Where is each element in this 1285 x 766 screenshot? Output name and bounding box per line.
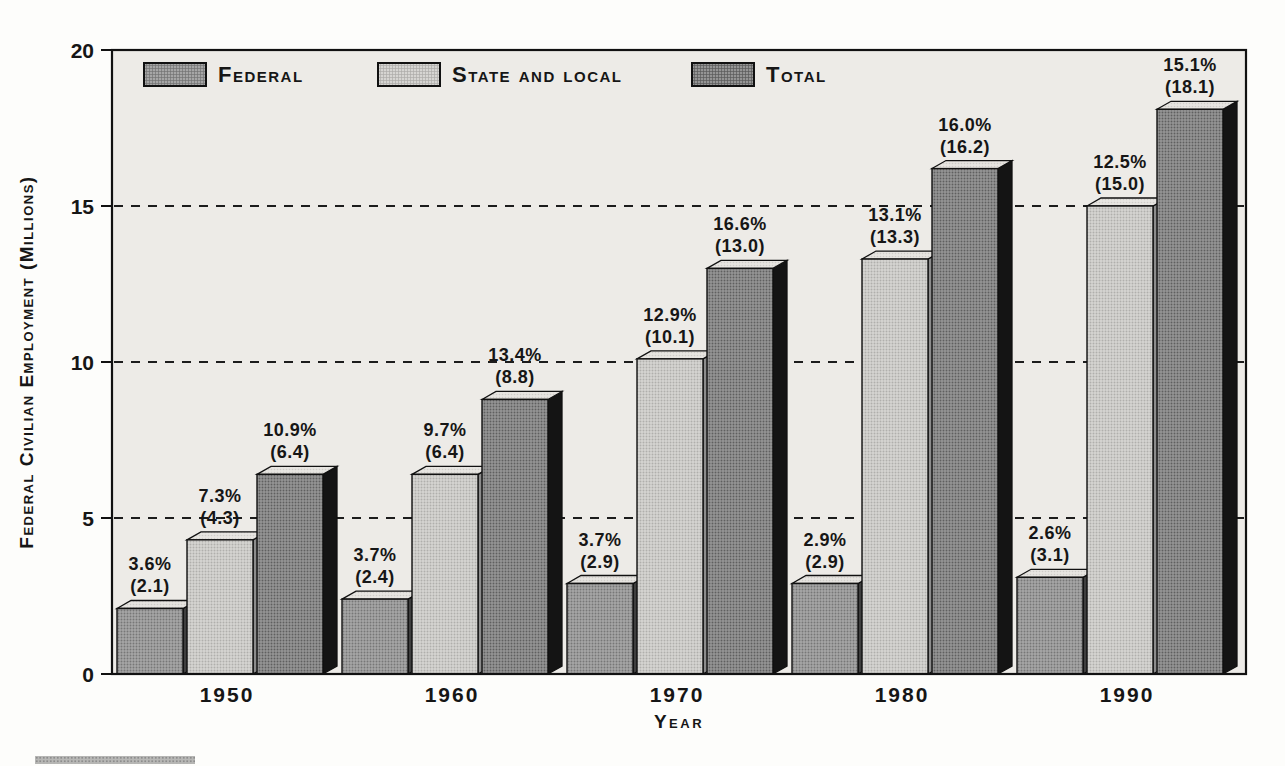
bar-value-label-total-1990: (18.1): [1165, 77, 1215, 97]
y-tick-label-15: 15: [71, 195, 95, 218]
bar-pct-label-state-and-local-1990: 12.5%: [1093, 152, 1147, 172]
bar-federal-1950-top: [117, 600, 197, 608]
legend-item-state-local: State and local: [377, 62, 623, 87]
bar-state-and-local-1990-top: [1087, 198, 1167, 206]
bar-federal-1960-top: [342, 591, 422, 599]
bar-federal-1980: [792, 584, 858, 674]
bar-value-label-state-and-local-1950: (4.3): [200, 508, 240, 528]
legend-label-state-local: State and local: [452, 62, 623, 87]
bar-value-label-total-1950: (6.4): [270, 442, 310, 462]
bar-federal-1980-top: [792, 576, 872, 584]
bar-total-1980-side: [998, 161, 1012, 674]
bar-value-label-federal-1970: (2.9): [580, 552, 620, 572]
bar-federal-1950: [117, 608, 183, 674]
bar-pct-label-total-1960: 13.4%: [488, 345, 542, 365]
x-axis-title: Year: [654, 711, 704, 733]
legend-item-federal: Federal: [143, 62, 304, 87]
page-decoration-rule: [35, 756, 195, 764]
bar-federal-1970: [567, 584, 633, 674]
bar-state-and-local-1970-top: [637, 351, 717, 359]
bar-total-1960-side: [548, 391, 562, 674]
bar-total-1970-top: [707, 260, 787, 268]
bar-pct-label-federal-1980: 2.9%: [803, 530, 846, 550]
legend-item-total: Total: [691, 62, 827, 87]
legend-swatch-state-local: [377, 62, 441, 87]
x-tick-label-1960: 1960: [425, 683, 480, 706]
bar-state-and-local-1950: [187, 540, 253, 674]
y-tick-label-20: 20: [71, 39, 94, 62]
bar-total-1970-side: [773, 260, 787, 674]
bar-pct-label-state-and-local-1970: 12.9%: [643, 305, 697, 325]
y-tick-label-5: 5: [82, 507, 94, 530]
legend-label-federal: Federal: [218, 62, 304, 87]
bar-value-label-federal-1990: (3.1): [1030, 545, 1070, 565]
bar-pct-label-total-1980: 16.0%: [938, 115, 992, 135]
bar-state-and-local-1990: [1087, 206, 1153, 674]
bar-value-label-state-and-local-1970: (10.1): [645, 327, 695, 347]
x-tick-label-1980: 1980: [875, 683, 930, 706]
bar-state-and-local-1960-top: [412, 466, 492, 474]
x-tick-label-1990: 1990: [1100, 683, 1155, 706]
bar-value-label-total-1970: (13.0): [715, 236, 765, 256]
bar-total-1980-top: [932, 161, 1012, 169]
bar-state-and-local-1960: [412, 474, 478, 674]
bar-pct-label-federal-1990: 2.6%: [1028, 523, 1071, 543]
bar-total-1960-top: [482, 391, 562, 399]
bar-pct-label-total-1950: 10.9%: [263, 420, 317, 440]
bar-federal-1990-top: [1017, 569, 1097, 577]
bar-value-label-state-and-local-1980: (13.3): [870, 227, 920, 247]
bar-federal-1960: [342, 599, 408, 674]
bar-state-and-local-1980-top: [862, 251, 942, 259]
bar-total-1990-side: [1223, 101, 1237, 674]
y-tick-label-10: 10: [71, 351, 94, 374]
bar-pct-label-total-1990: 15.1%: [1163, 55, 1217, 75]
bar-pct-label-total-1970: 16.6%: [713, 214, 767, 234]
bar-state-and-local-1950-top: [187, 532, 267, 540]
y-axis-title: Federal Civilian Employment (Millions): [16, 175, 38, 548]
bar-value-label-state-and-local-1960: (6.4): [425, 442, 465, 462]
y-tick-label-0: 0: [82, 663, 94, 686]
bar-value-label-state-and-local-1990: (15.0): [1095, 174, 1145, 194]
bar-total-1950-side: [323, 466, 337, 674]
bar-value-label-total-1980: (16.2): [940, 137, 990, 157]
bar-chart-canvas: 051015203.6%(2.1)7.3%(4.3)10.9%(6.4)1950…: [0, 0, 1285, 766]
legend-swatch-federal: [143, 62, 207, 87]
bar-state-and-local-1970: [637, 359, 703, 674]
bar-value-label-total-1960: (8.8): [495, 367, 535, 387]
x-tick-label-1950: 1950: [200, 683, 255, 706]
bar-total-1950: [257, 474, 323, 674]
bar-total-1990-top: [1157, 101, 1237, 109]
legend-swatch-total: [691, 62, 755, 87]
bar-total-1960: [482, 399, 548, 674]
bar-total-1990: [1157, 109, 1223, 674]
bar-value-label-federal-1980: (2.9): [805, 552, 845, 572]
bar-pct-label-federal-1960: 3.7%: [353, 545, 396, 565]
x-tick-label-1970: 1970: [650, 683, 705, 706]
bar-total-1980: [932, 169, 998, 674]
bar-pct-label-state-and-local-1950: 7.3%: [198, 486, 241, 506]
bar-pct-label-federal-1970: 3.7%: [578, 530, 621, 550]
bar-total-1950-top: [257, 466, 337, 474]
bar-state-and-local-1980: [862, 259, 928, 674]
bar-total-1970: [707, 268, 773, 674]
bar-federal-1970-top: [567, 576, 647, 584]
figure-page: 051015203.6%(2.1)7.3%(4.3)10.9%(6.4)1950…: [0, 0, 1285, 766]
bar-pct-label-federal-1950: 3.6%: [128, 554, 171, 574]
bar-value-label-federal-1950: (2.1): [130, 576, 170, 596]
bar-pct-label-state-and-local-1980: 13.1%: [868, 205, 922, 225]
bar-pct-label-state-and-local-1960: 9.7%: [423, 420, 466, 440]
bar-federal-1990: [1017, 577, 1083, 674]
legend-label-total: Total: [766, 62, 827, 87]
bar-value-label-federal-1960: (2.4): [355, 567, 395, 587]
